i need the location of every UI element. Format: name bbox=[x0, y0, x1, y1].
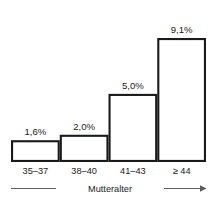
bar-value-label: 2,0% bbox=[73, 121, 95, 132]
bar bbox=[158, 39, 205, 161]
category-label: 38–40 bbox=[71, 166, 97, 176]
category-label: ≥ 44 bbox=[173, 166, 191, 176]
bar bbox=[61, 136, 108, 161]
bar bbox=[12, 141, 59, 161]
chart-container: 1,6%2,0%5,0%9,1% 35–3738–4041–43≥ 44 Mut… bbox=[0, 0, 222, 201]
x-axis-title: Mutteralter bbox=[88, 184, 132, 194]
bar-value-label: 1,6% bbox=[24, 126, 46, 137]
bars bbox=[12, 39, 205, 161]
bar-chart: 1,6%2,0%5,0%9,1% 35–3738–4041–43≥ 44 Mut… bbox=[0, 0, 222, 201]
category-label: 35–37 bbox=[23, 166, 49, 176]
bar-value-label: 5,0% bbox=[122, 80, 144, 91]
category-label: 41–43 bbox=[120, 166, 146, 176]
bar bbox=[110, 95, 157, 161]
category-axis-labels: 35–3738–4041–43≥ 44 bbox=[23, 166, 191, 176]
bar-value-label: 9,1% bbox=[171, 24, 193, 35]
